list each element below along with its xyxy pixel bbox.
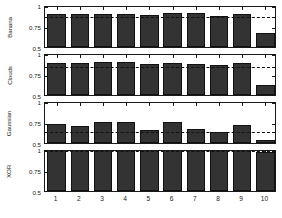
x-tick-mark-top — [80, 55, 81, 58]
bar — [71, 63, 90, 95]
x-tick-mark-top — [173, 7, 174, 10]
x-tick-mark-top — [196, 7, 197, 10]
subplot-clouds: Clouds0.50.751 — [0, 54, 282, 102]
x-tick-mark-top — [242, 7, 243, 10]
bar — [256, 85, 275, 95]
x-tick-mark-top — [265, 103, 266, 106]
bar — [140, 64, 159, 95]
bar — [210, 150, 229, 191]
x-tick-label: 6 — [170, 195, 174, 202]
bar — [47, 124, 66, 143]
plot-area-banana — [44, 6, 276, 48]
bar — [163, 13, 182, 47]
x-tick-mark-top — [149, 103, 150, 106]
y-tick-label: 0.75 — [29, 72, 41, 79]
bar — [256, 33, 275, 47]
bar — [187, 13, 206, 47]
y-tick-label: 0.75 — [29, 168, 41, 175]
y-tick-label: 1 — [38, 51, 41, 58]
x-tick-mark-top — [80, 103, 81, 106]
bar — [47, 150, 66, 191]
x-tick-mark-top — [219, 103, 220, 106]
y-tick-label: 1 — [38, 3, 41, 10]
y-tick-mark-right — [272, 103, 275, 104]
plot-area-xor — [44, 150, 276, 192]
y-axis-banana: 0.50.751 — [16, 6, 42, 48]
bar — [71, 126, 90, 143]
x-tick-label: 2 — [77, 195, 81, 202]
x-tick-mark-top — [126, 55, 127, 58]
y-tick-mark-right — [272, 7, 275, 8]
x-tick-mark-top — [149, 7, 150, 10]
x-tick-mark-top — [265, 55, 266, 58]
x-tick-mark-top — [173, 103, 174, 106]
y-axis-clouds: 0.50.751 — [16, 54, 42, 96]
x-tick-mark-top — [242, 103, 243, 106]
x-tick-mark-top — [196, 103, 197, 106]
x-tick-label: 1 — [54, 195, 58, 202]
y-tick-label: 0.5 — [32, 189, 41, 196]
bar — [210, 132, 229, 143]
y-tick-mark-left — [45, 103, 48, 104]
y-tick-mark-right — [272, 124, 275, 125]
y-tick-label: 0.75 — [29, 24, 41, 31]
x-tick-label: 10 — [261, 195, 268, 202]
bar — [71, 150, 90, 191]
x-tick-label: 7 — [193, 195, 197, 202]
panel-y-title-banana: Banana — [2, 6, 16, 48]
bar — [47, 14, 66, 47]
panel-y-title-text: Banana — [6, 17, 13, 38]
bar — [233, 14, 252, 47]
bar — [140, 15, 159, 47]
bar — [117, 150, 136, 191]
bar — [163, 150, 182, 191]
bar — [71, 14, 90, 47]
bar — [233, 150, 252, 191]
y-tick-mark-right — [272, 76, 275, 77]
subplot-gaussian: Gaussian0.50.751 — [0, 102, 282, 150]
x-tick-label: 8 — [216, 195, 220, 202]
x-tick-mark-top — [103, 55, 104, 58]
subplot-xor: XOR0.50.751 — [0, 150, 282, 198]
x-tick-label: 9 — [239, 195, 243, 202]
x-tick-mark-top — [126, 7, 127, 10]
x-tick-mark-top — [219, 55, 220, 58]
reference-line — [45, 17, 275, 18]
bar — [94, 150, 113, 191]
y-tick-mark-left — [45, 7, 48, 8]
reference-line — [45, 67, 275, 68]
x-tick-mark-top — [103, 7, 104, 10]
x-tick-mark-top — [57, 7, 58, 10]
x-tick-mark-top — [126, 103, 127, 106]
x-tick-mark-top — [57, 55, 58, 58]
bar — [94, 14, 113, 47]
x-tick-mark-top — [80, 7, 81, 10]
bar — [256, 140, 275, 143]
bar — [256, 152, 275, 191]
y-tick-mark-right — [272, 55, 275, 56]
bar — [210, 16, 229, 48]
plot-area-clouds — [44, 54, 276, 96]
reference-line — [45, 151, 275, 152]
panel-y-title-text: XOR — [5, 164, 12, 177]
bar — [210, 65, 229, 95]
bar — [187, 64, 206, 96]
panel-y-title-text: Clouds — [6, 66, 13, 85]
y-tick-mark-left — [45, 55, 48, 56]
x-tick-label: 4 — [123, 195, 127, 202]
x-axis: 12345678910 — [44, 194, 276, 210]
plot-area-gaussian — [44, 102, 276, 144]
y-tick-label: 1 — [38, 99, 41, 106]
panel-y-title-gaussian: Gaussian — [2, 102, 16, 144]
x-tick-label: 3 — [100, 195, 104, 202]
y-tick-mark-right — [272, 28, 275, 29]
x-tick-label: 5 — [147, 195, 151, 202]
x-tick-mark-top — [149, 55, 150, 58]
x-tick-mark-top — [242, 55, 243, 58]
subplot-banana: Banana0.50.751 — [0, 6, 282, 54]
bar — [187, 150, 206, 191]
x-tick-mark-top — [196, 55, 197, 58]
x-tick-mark-top — [219, 7, 220, 10]
x-tick-mark-top — [265, 7, 266, 10]
panel-y-title-text: Gaussian — [6, 110, 13, 135]
